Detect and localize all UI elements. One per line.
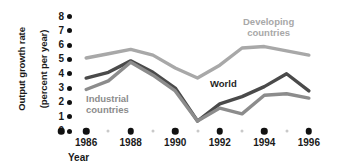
series-label-developing-countries: Developingcountries [243, 17, 294, 38]
x-axis-tick-label: 1996 [298, 137, 320, 148]
x-axis-title: Year [68, 152, 89, 163]
series-label-world: World [210, 79, 237, 90]
x-axis-dot-major [83, 128, 90, 135]
x-axis-dot-major [217, 128, 224, 135]
x-axis-tick-label: 1994 [253, 137, 275, 148]
x-axis-dot-minor [241, 130, 244, 133]
x-axis-tick-label: 1988 [120, 137, 142, 148]
x-axis-dot-minor [285, 130, 288, 133]
chart-container: Output growth rate (percent per year) 87… [0, 0, 337, 166]
x-axis-dot-major [127, 128, 134, 135]
x-axis-tick-label: 1992 [209, 137, 231, 148]
x-axis-dot-major [261, 128, 268, 135]
x-axis-origin-dot [58, 128, 65, 135]
x-axis-dot-major [306, 128, 313, 135]
x-axis-dot-minor [107, 130, 110, 133]
x-axis-tick-label: 1990 [164, 137, 186, 148]
x-axis-dot-minor [196, 130, 199, 133]
series-label-industrial-countries: Industrialcountries [86, 94, 129, 115]
x-axis-dot-minor [151, 130, 154, 133]
x-axis-tick-label: 1986 [75, 137, 97, 148]
x-axis-dot-major [172, 128, 179, 135]
